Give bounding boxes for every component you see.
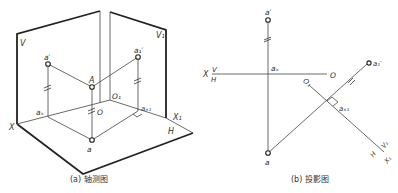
label-O-b: O <box>330 71 336 80</box>
label-A: A <box>88 76 94 85</box>
label-V1: V₁ <box>156 31 165 40</box>
right-angle-mark <box>133 114 142 117</box>
label-ax1: aₓ₁ <box>141 105 151 113</box>
caption-b: (b) 投影图 <box>291 174 329 184</box>
label-ax: aₓ <box>36 108 45 117</box>
label-X-b: X <box>202 70 209 79</box>
point-a1-prime <box>136 55 141 60</box>
label-a: a <box>87 145 92 154</box>
label-V1-b: V₁ <box>380 139 391 150</box>
ax-to-a <box>48 117 92 140</box>
label-a1-prime-b: a₁′ <box>373 60 382 68</box>
point-a-prime <box>46 62 51 67</box>
label-X1: X₁ <box>172 113 182 122</box>
label-O: O <box>97 108 103 117</box>
A-to-a1-prime <box>92 57 138 87</box>
label-H: H <box>168 127 174 136</box>
point-A <box>90 85 95 90</box>
a-prime-to-A <box>48 64 92 87</box>
label-X1-b: X₁ <box>382 154 394 166</box>
label-H-b: H <box>211 76 217 84</box>
x1-axis-b <box>309 85 384 152</box>
label-V-b: V <box>212 66 218 74</box>
axonometric-figure: V V₁ a′ a₁′ A O₁ O aₓ aₓ₁ X X₁ H a (a) 轴… <box>8 11 193 184</box>
point-a-prime-b <box>266 18 271 23</box>
caption-a: (a) 轴测图 <box>70 174 108 184</box>
label-H2-b: H <box>369 150 378 159</box>
a-to-a1-prime-line <box>268 64 367 153</box>
projection-diagram: V V₁ a′ a₁′ A O₁ O aₓ aₓ₁ X X₁ H a (a) 轴… <box>0 0 398 193</box>
point-a <box>90 138 95 143</box>
label-V: V <box>20 39 26 48</box>
label-a-b: a <box>265 158 270 167</box>
label-ax1-b: aₓ₁ <box>339 105 349 113</box>
label-O1: O₁ <box>112 92 121 101</box>
label-X: X <box>8 123 15 132</box>
point-a1-prime-b <box>367 61 371 65</box>
label-a-prime-b: a′ <box>265 8 272 17</box>
label-a-prime: a′ <box>44 53 51 62</box>
point-a-b <box>266 151 271 156</box>
label-ax-b: aₓ <box>271 64 280 73</box>
label-a1-prime: a₁′ <box>134 46 144 55</box>
v-plane-edge <box>17 11 100 124</box>
projection-figure: a′ aₓ X V H O O₁ a₁′ aₓ₁ V₁ H X₁ a (b) 投… <box>202 8 394 184</box>
equal-marks-b <box>264 37 355 85</box>
